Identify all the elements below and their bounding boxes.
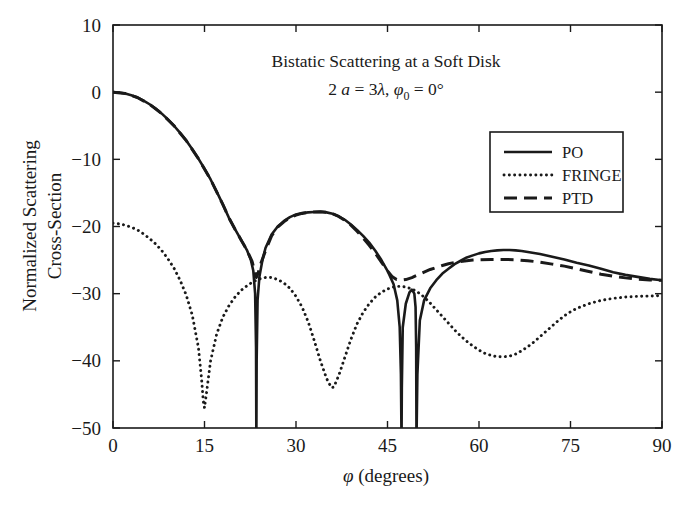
x-tick-label-90: 90 [653, 435, 672, 456]
y-tick-label-−30: −30 [71, 283, 101, 304]
y-tick-label-−10: −10 [71, 149, 101, 170]
x-tick-label-0: 0 [108, 435, 118, 456]
y-tick-label-10: 10 [82, 15, 101, 36]
x-tick-label-75: 75 [561, 435, 580, 456]
y-tick-label-−20: −20 [71, 216, 101, 237]
legend-label-fringe: FRINGE [562, 166, 622, 185]
legend-label-po: PO [562, 143, 583, 162]
series-line-fringe [113, 223, 662, 408]
x-axis-title: φ (degrees) [343, 465, 429, 487]
x-tick-label-45: 45 [378, 435, 397, 456]
y-axis-title-line1: Normalized Scattering [19, 140, 40, 312]
chart-title: Bistatic Scattering at a Soft Disk [272, 51, 501, 71]
x-tick-label-60: 60 [470, 435, 489, 456]
scattering-chart-figure: 0153045607590100−10−20−30−40−50Bistatic … [0, 0, 689, 510]
y-tick-label-−50: −50 [71, 418, 101, 439]
chart-subtitle: 2 a = 3λ, φ0 = 0° [328, 79, 444, 103]
chart-canvas: 0153045607590100−10−20−30−40−50Bistatic … [0, 0, 689, 510]
y-axis-title-line2: Cross-Section [44, 172, 65, 279]
x-tick-label-15: 15 [195, 435, 214, 456]
y-tick-label-−40: −40 [71, 350, 101, 371]
x-tick-label-30: 30 [287, 435, 306, 456]
legend-label-ptd: PTD [562, 189, 593, 208]
y-tick-label-0: 0 [92, 82, 102, 103]
legend: POFRINGEPTD [490, 132, 623, 212]
